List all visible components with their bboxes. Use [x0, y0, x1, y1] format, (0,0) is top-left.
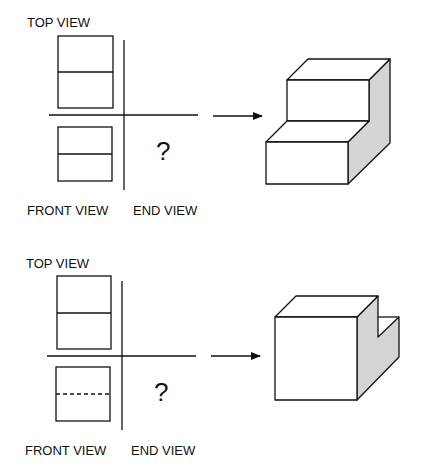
top-view-drawing — [57, 276, 111, 349]
top-view-label: TOP VIEW — [26, 256, 90, 271]
front-view-drawing — [56, 367, 110, 421]
front-view-label: FRONT VIEW — [27, 203, 109, 218]
front-view-label: FRONT VIEW — [25, 443, 107, 458]
end-view-unknown: ? — [154, 377, 168, 407]
orthographic-projection-diagram: TOP VIEW ? FRONT VIEW END VIEW — [0, 0, 423, 472]
top-view-label: TOP VIEW — [27, 15, 91, 30]
front-view-drawing — [58, 127, 112, 181]
projection-axes — [47, 281, 196, 430]
end-view-unknown: ? — [156, 136, 170, 166]
end-view-label: END VIEW — [133, 203, 198, 218]
problem-1: TOP VIEW ? FRONT VIEW END VIEW — [27, 15, 390, 218]
stepped-block-isometric — [266, 59, 390, 184]
notched-block-isometric — [275, 296, 399, 400]
top-view-drawing — [58, 36, 113, 108]
projection-axes — [49, 40, 198, 190]
problem-2: TOP VIEW ? FRONT VIEW END VIEW — [25, 256, 399, 458]
end-view-label: END VIEW — [131, 443, 196, 458]
